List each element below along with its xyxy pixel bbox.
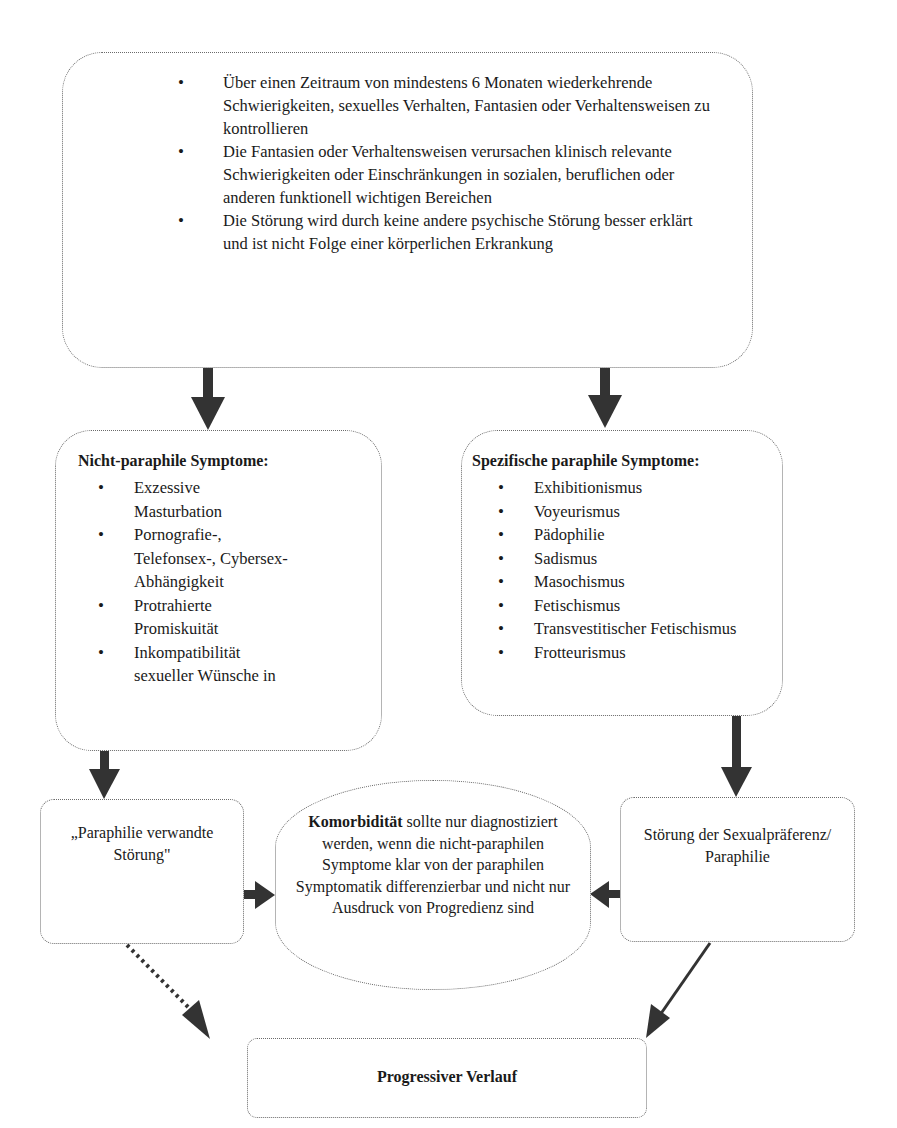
comorbidity-text: Komorbidität sollte nur diagnostiziert w…	[276, 811, 590, 919]
symptom-item: Exzessive Masturbation	[98, 476, 288, 523]
criteria-item: Die Fantasien oder Verhaltensweisen veru…	[178, 140, 718, 209]
criteria-list: Über einen Zeitraum von mindestens 6 Mon…	[178, 71, 718, 255]
arrow-down-left-icon	[191, 368, 225, 430]
dotted-arrow-progressive-icon	[127, 945, 210, 1039]
symptom-item: Masochismus	[498, 570, 738, 594]
symptom-item: Pädophilie	[498, 523, 738, 547]
paraphilic-title: Spezifische paraphile Symptome:	[472, 452, 700, 470]
comorbidity-bold: Komorbidität	[308, 813, 402, 830]
progressive-course-box: Progressiver Verlauf	[247, 1038, 647, 1118]
paraphilic-symptoms-box: Spezifische paraphile Symptome: Exhibiti…	[461, 430, 783, 716]
symptom-item: Protrahierte Promiskuität	[98, 594, 288, 641]
comorbidity-box: Komorbidität sollte nur diagnostiziert w…	[275, 780, 591, 990]
paraphilia-label: Störung der Sexualpräferenz/ Paraphilie	[621, 824, 854, 867]
non-paraphilic-list: Exzessive Masturbation Pornografie-, Tel…	[98, 476, 288, 688]
arrow-left-comorbidity-icon	[590, 881, 620, 908]
progressive-course-label: Progressiver Verlauf	[248, 1066, 646, 1088]
related-disorder-label: „Paraphilie verwandte Störung"	[41, 822, 243, 865]
non-paraphilic-title: Nicht-paraphile Symptome:	[78, 452, 269, 470]
paraphilic-list: Exhibitionismus Voyeurismus Pädophilie S…	[498, 476, 738, 664]
arrow-down-related-icon	[89, 751, 120, 799]
related-disorder-box: „Paraphilie verwandte Störung"	[40, 799, 244, 944]
criteria-box: Über einen Zeitraum von mindestens 6 Mon…	[62, 52, 753, 368]
criteria-item: Über einen Zeitraum von mindestens 6 Mon…	[178, 71, 718, 140]
symptom-item: Fetischismus	[498, 594, 738, 618]
solid-arrow-progressive-icon	[646, 943, 710, 1038]
symptom-item: Voyeurismus	[498, 500, 738, 524]
arrow-right-comorbidity-icon	[244, 881, 275, 909]
symptom-item: Pornografie-, Telefonsex-, Cybersex-Abhä…	[98, 523, 288, 594]
symptom-item: Frotteurismus	[498, 641, 738, 665]
symptom-item: Inkompatibilität sexueller Wünsche in	[98, 641, 288, 688]
symptom-item: Sadismus	[498, 547, 738, 571]
paraphilia-box: Störung der Sexualpräferenz/ Paraphilie	[620, 797, 855, 942]
symptom-item: Transvestitischer Fetischismus	[498, 617, 738, 641]
arrow-down-paraphilia-icon	[721, 716, 752, 797]
arrow-down-right-icon	[588, 366, 622, 428]
non-paraphilic-symptoms-box: Nicht-paraphile Symptome: Exzessive Mast…	[55, 430, 382, 751]
criteria-item: Die Störung wird durch keine andere psyc…	[178, 209, 718, 255]
symptom-item: Exhibitionismus	[498, 476, 738, 500]
